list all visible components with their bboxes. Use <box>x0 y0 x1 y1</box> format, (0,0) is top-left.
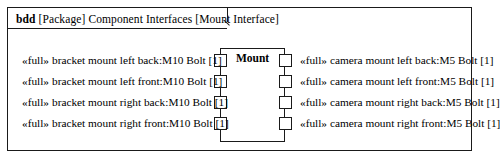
stereotype-full: «full» <box>300 117 327 129</box>
stereotype-full: «full» <box>22 54 49 66</box>
port-label-bracket-mount-left-front: «full»bracket mount left front:M10 Bolt … <box>22 75 222 88</box>
port-label-bracket-mount-right-front: «full»bracket mount right front:M10 Bolt… <box>22 117 229 130</box>
stereotype-full: «full» <box>300 75 327 87</box>
block-mount-title: Mount <box>221 52 284 64</box>
port-camera-mount-left-back[interactable] <box>279 54 292 67</box>
port-camera-mount-left-front[interactable] <box>279 75 292 88</box>
port-signature: camera mount right back:M5 Bolt [1] <box>330 96 500 108</box>
stereotype-full: «full» <box>22 75 49 87</box>
diagram-frame: bdd [Package] Component Interfaces [Moun… <box>7 7 472 151</box>
port-camera-mount-right-back[interactable] <box>279 96 292 109</box>
diagram-header-tab: bdd [Package] Component Interfaces [Moun… <box>8 8 284 29</box>
stereotype-full: «full» <box>300 96 327 108</box>
port-signature: camera mount right front:M5 Bolt [1] <box>330 117 500 129</box>
block-mount[interactable]: Mount <box>220 48 285 142</box>
port-signature: bracket mount left front:M10 Bolt [1] <box>52 75 222 87</box>
port-label-bracket-mount-left-back: «full»bracket mount left back:M10 Bolt [… <box>22 54 222 67</box>
diagram-model-name: Component Interfaces <box>88 13 192 25</box>
port-signature: bracket mount right front:M10 Bolt [1] <box>52 117 229 129</box>
port-label-camera-mount-left-back: «full»camera mount left back:M5 Bolt [1] <box>300 54 493 67</box>
stereotype-full: «full» <box>22 117 49 129</box>
tab-bevel-corner <box>220 20 230 30</box>
port-label-camera-mount-left-front: «full»camera mount left front:M5 Bolt [1… <box>300 75 494 88</box>
diagram-name: [Mount Interface] <box>195 13 279 25</box>
stereotype-full: «full» <box>300 54 327 66</box>
port-signature: camera mount left back:M5 Bolt [1] <box>330 54 493 66</box>
port-label-camera-mount-right-back: «full»camera mount right back:M5 Bolt [1… <box>300 96 500 109</box>
tab-bottom-border <box>8 28 227 29</box>
port-camera-mount-right-front[interactable] <box>279 117 292 130</box>
port-label-bracket-mount-right-back: «full»bracket mount right back:M10 Bolt … <box>22 96 228 109</box>
diagram-package-token: [Package] <box>39 13 86 25</box>
port-signature: bracket mount left back:M10 Bolt [1] <box>52 54 222 66</box>
port-signature: camera mount left front:M5 Bolt [1] <box>330 75 494 87</box>
port-label-camera-mount-right-front: «full»camera mount right front:M5 Bolt [… <box>300 117 500 130</box>
diagram-kind-label: bdd <box>16 13 36 25</box>
port-signature: bracket mount right back:M10 Bolt [1] <box>52 96 228 108</box>
stereotype-full: «full» <box>22 96 49 108</box>
